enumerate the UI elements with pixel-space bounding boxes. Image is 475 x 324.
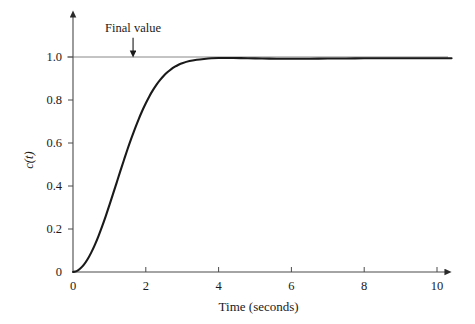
- response-curve: [73, 58, 452, 272]
- chart-canvas: [0, 0, 475, 324]
- x-axis-tick-label: 8: [361, 280, 367, 293]
- step-response-chart: 00.20.40.60.81.0 0246810 Time (seconds) …: [0, 0, 475, 324]
- x-axis-tick-label: 6: [288, 280, 294, 293]
- final-value-annotation-label: Final value: [105, 21, 161, 36]
- x-axis-tick-label: 0: [70, 280, 76, 293]
- x-axis-tick-label: 2: [143, 280, 149, 293]
- y-axis-tick-label: 0.8: [0, 94, 62, 107]
- x-axis-title: Time (seconds): [219, 299, 299, 315]
- y-axis-title-text: c(t): [22, 152, 36, 169]
- x-axis-tick-label: 4: [215, 280, 221, 293]
- y-axis-tick-label: 1.0: [0, 51, 62, 64]
- y-axis-tick-label: 0: [0, 266, 62, 279]
- y-axis-tick-label: 0.2: [0, 223, 62, 236]
- y-axis-tick-label: 0.6: [0, 137, 62, 150]
- response-curve-group: [73, 58, 452, 272]
- x-axis-tick-label: 10: [431, 280, 444, 293]
- y-axis-tick-label: 0.4: [0, 180, 62, 193]
- y-axis-title: c(t): [22, 152, 37, 169]
